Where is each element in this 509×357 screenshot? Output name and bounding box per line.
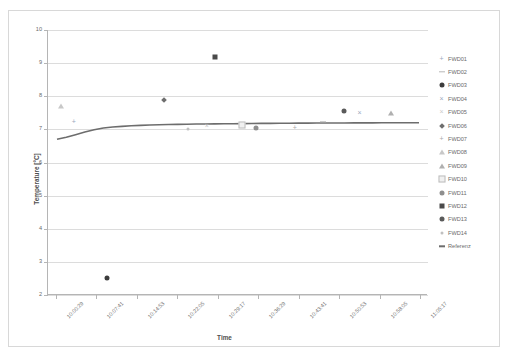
legend-marker-icon-fwd14 (437, 228, 446, 237)
marker-glyph (439, 217, 444, 222)
legend-marker-icon-fwd02 (437, 68, 446, 77)
x-axis-title-text: Time (217, 334, 232, 341)
legend-marker-icon-fwd12 (437, 201, 446, 210)
marker-glyph (439, 83, 444, 88)
x-tick-1 (96, 295, 97, 299)
legend-label: FWD14 (448, 230, 467, 236)
marker-glyph: + (439, 55, 443, 62)
marker-glyph (439, 190, 444, 195)
legend-marker-icon-fwd11 (437, 188, 446, 197)
referenz-trace-line (48, 30, 428, 295)
legend-marker-icon-referenz (437, 242, 446, 251)
data-point-FWD14 (187, 128, 190, 131)
x-tick-4 (218, 295, 219, 299)
marker-glyph (440, 231, 443, 234)
x-tick-2 (137, 295, 138, 299)
legend-label: FWD10 (448, 176, 467, 182)
legend-label: Referenz (448, 243, 471, 249)
legend-label: FWD03 (448, 82, 467, 88)
legend-item-fwd05[interactable]: ×FWD05 (437, 106, 499, 119)
legend-item-fwd13[interactable]: FWD13 (437, 213, 499, 226)
marker-glyph (438, 176, 445, 183)
data-point-FWD08 (58, 104, 64, 109)
legend-item-fwd04[interactable]: ×FWD04 (437, 92, 499, 105)
gridline-y-2 (48, 295, 428, 296)
legend-marker-icon-fwd03 (437, 81, 446, 90)
marker-glyph: × (439, 95, 443, 102)
data-point-FWD12 (213, 54, 218, 59)
legend-item-fwd07[interactable]: +FWD07 (437, 132, 499, 145)
x-tick-7 (339, 295, 340, 299)
marker-glyph (439, 203, 444, 208)
legend-marker-icon-fwd06 (437, 121, 446, 130)
legend-item-fwd09[interactable]: FWD09 (437, 159, 499, 172)
legend-item-fwd12[interactable]: FWD12 (437, 199, 499, 212)
y-tick-label-3: 3 (39, 259, 42, 265)
legend-label: FWD13 (448, 216, 467, 222)
legend-item-referenz[interactable]: Referenz (437, 239, 499, 252)
legend-marker-icon-fwd10 (437, 175, 446, 184)
legend-item-fwd03[interactable]: FWD03 (437, 79, 499, 92)
legend-marker-icon-fwd01: + (437, 54, 446, 63)
marker-glyph (439, 123, 445, 129)
marker-glyph: × (439, 108, 443, 115)
legend-item-fwd14[interactable]: FWD14 (437, 226, 499, 239)
y-tick-label-6: 6 (39, 160, 42, 166)
x-axis-title: Time (0, 334, 509, 341)
chart-legend: +FWD01FWD02FWD03×FWD04×FWD05FWD06+FWD07F… (437, 52, 499, 253)
x-tick-0 (56, 295, 57, 299)
legend-label: FWD04 (448, 96, 467, 102)
legend-item-fwd11[interactable]: FWD11 (437, 186, 499, 199)
data-point-FWD02 (320, 121, 326, 122)
x-tick-5 (258, 295, 259, 299)
legend-marker-icon-fwd08 (437, 148, 446, 157)
chart-figure: Temperature [°C] 2345678910 10:00:2910:0… (0, 0, 509, 357)
legend-label: FWD09 (448, 163, 467, 169)
data-point-FWD11 (254, 125, 259, 130)
x-tick-9 (420, 295, 421, 299)
marker-glyph (439, 163, 445, 168)
y-tick-label-10: 10 (36, 27, 42, 33)
legend-label: FWD01 (448, 56, 467, 62)
legend-marker-icon-fwd09 (437, 161, 446, 170)
data-point-FWD09 (388, 110, 394, 115)
data-point-FWD03 (104, 276, 109, 281)
legend-label: FWD12 (448, 203, 467, 209)
legend-label: FWD08 (448, 149, 467, 155)
x-tick-8 (380, 295, 381, 299)
legend-marker-icon-fwd04: × (437, 94, 446, 103)
legend-item-fwd06[interactable]: FWD06 (437, 119, 499, 132)
legend-marker-icon-fwd07: + (437, 135, 446, 144)
y-tick-2 (44, 295, 48, 296)
marker-glyph: + (439, 135, 443, 142)
legend-item-fwd10[interactable]: FWD10 (437, 173, 499, 186)
legend-item-fwd01[interactable]: +FWD01 (437, 52, 499, 65)
y-tick-label-7: 7 (39, 127, 42, 133)
plot-area: 2345678910 10:00:2910:07:4110:14:5310:22… (47, 30, 427, 295)
marker-glyph (439, 245, 445, 246)
legend-item-fwd08[interactable]: FWD08 (437, 146, 499, 159)
data-point-FWD13 (341, 109, 346, 114)
marker-glyph (439, 71, 445, 72)
legend-label: FWD02 (448, 69, 467, 75)
x-tick-3 (177, 295, 178, 299)
data-point-FWD10 (239, 122, 246, 129)
y-tick-label-4: 4 (39, 226, 42, 232)
y-tick-label-8: 8 (39, 93, 42, 99)
legend-item-fwd02[interactable]: FWD02 (437, 65, 499, 78)
marker-glyph (439, 150, 445, 155)
legend-label: FWD07 (448, 136, 467, 142)
legend-marker-icon-fwd05: × (437, 108, 446, 117)
legend-label: FWD06 (448, 123, 467, 129)
legend-label: FWD11 (448, 190, 467, 196)
x-tick-6 (299, 295, 300, 299)
legend-marker-icon-fwd13 (437, 215, 446, 224)
y-tick-label-2: 2 (39, 292, 42, 298)
y-tick-label-5: 5 (39, 193, 42, 199)
y-tick-label-9: 9 (39, 60, 42, 66)
legend-label: FWD05 (448, 109, 467, 115)
